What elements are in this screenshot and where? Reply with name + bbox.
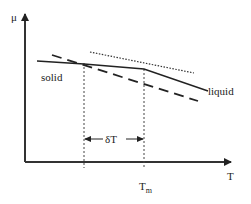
solid-label: solid [41, 71, 63, 83]
tangent-dotted-line [90, 52, 194, 73]
y-axis-label: μ [11, 11, 17, 23]
solid-phase-line [37, 61, 208, 91]
x-axis-label: T [227, 170, 234, 182]
mu-vs-temperature-diagram: μ T solid liquid δT Tm [0, 0, 251, 204]
melting-temp-label: Tm [139, 180, 153, 195]
delta-t-label: δT [105, 133, 117, 145]
liquid-phase-dashed-line [52, 55, 198, 101]
delta-t-interval: δT [85, 133, 143, 145]
liquid-label: liquid [208, 85, 234, 97]
